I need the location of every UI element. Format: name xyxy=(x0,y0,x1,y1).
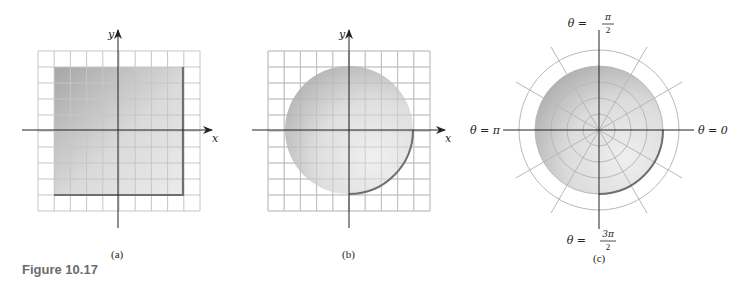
x-axis-label-a: x xyxy=(212,132,219,145)
svg-text:θ =: θ = xyxy=(568,17,587,30)
panel-b: x y (b) xyxy=(252,28,452,261)
x-axis-label-b: x xyxy=(445,132,452,145)
svg-text:π: π xyxy=(604,12,612,22)
angle-label-bottom: θ = 3π 2 xyxy=(567,229,616,252)
svg-text:3π: 3π xyxy=(602,229,615,239)
figure-label: Figure 10.17 xyxy=(22,262,98,277)
figure-canvas: x y (a) x y (b) θ = π 2 θ = 3π xyxy=(0,0,748,290)
caption-a: (a) xyxy=(111,248,124,261)
y-axis-label-b: y xyxy=(338,28,346,41)
svg-text:2: 2 xyxy=(606,25,611,35)
angle-label-right: θ = 0 xyxy=(698,124,728,137)
angle-label-top: θ = π 2 xyxy=(568,12,614,35)
y-axis-label-a: y xyxy=(107,28,115,41)
panel-c: θ = π 2 θ = 3π 2 θ = π θ = 0 (c) xyxy=(470,12,728,265)
angle-label-left: θ = π xyxy=(470,124,501,137)
caption-b: (b) xyxy=(342,248,355,261)
svg-text:θ =: θ = xyxy=(567,234,586,247)
svg-text:2: 2 xyxy=(606,242,611,252)
panel-a: x y (a) xyxy=(22,28,219,261)
caption-c: (c) xyxy=(593,252,606,265)
